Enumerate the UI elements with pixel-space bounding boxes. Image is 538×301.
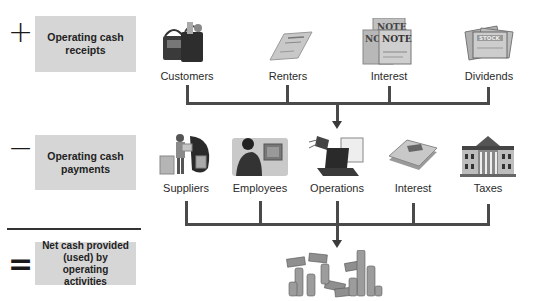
connector-taxes <box>487 204 490 225</box>
operations-laptop-icon <box>307 130 367 180</box>
lease-document-icon <box>258 18 318 68</box>
source-renters: Renters <box>248 18 328 82</box>
source-label: Suppliers <box>163 182 209 194</box>
source-label: Operations <box>310 182 364 194</box>
source-label: Taxes <box>474 182 503 194</box>
box-label-line: payments <box>47 163 123 176</box>
connector-operations <box>336 201 339 225</box>
box-label-line: Operating cash <box>47 31 123 44</box>
box-label-line: activities <box>41 276 130 288</box>
sum-divider-line <box>7 228 141 230</box>
receipts-arrow-head-icon <box>332 121 342 129</box>
note-certificates-icon: NOTE NO NOTE <box>359 18 419 68</box>
connector-suppliers <box>185 201 188 225</box>
box-label-line: (used) by operating <box>41 252 130 276</box>
stock-certificates-icon: STOCK <box>459 18 519 68</box>
supplier-boxes-icon <box>156 130 216 180</box>
equals-operator: = <box>8 246 33 281</box>
money-pile-icon <box>285 250 385 300</box>
payments-arrow-shaft <box>336 225 339 241</box>
source-interest-received: NOTE NO NOTE Interest <box>349 18 429 82</box>
svg-text:NOTE: NOTE <box>382 34 412 44</box>
receipts-arrow-shaft <box>336 104 339 122</box>
source-customers: Customers <box>147 18 227 82</box>
source-label: Customers <box>160 70 213 82</box>
minus-operator: − <box>8 130 33 165</box>
box-label-line: Operating cash <box>47 150 123 163</box>
operating-cash-payments-box: Operating cash payments <box>35 135 136 190</box>
connector-employees <box>259 201 262 225</box>
source-label: Renters <box>269 70 308 82</box>
source-taxes: Taxes <box>448 130 528 194</box>
box-label-line: receipts <box>47 44 123 57</box>
box-label-line: Net cash provided <box>41 240 130 252</box>
shopping-bags-icon <box>157 18 217 68</box>
source-suppliers: Suppliers <box>146 130 226 194</box>
source-label: Interest <box>371 70 408 82</box>
employee-computer-icon <box>230 130 290 180</box>
source-employees: Employees <box>220 130 300 194</box>
source-label: Interest <box>395 182 432 194</box>
source-label: Employees <box>233 182 287 194</box>
net-cash-box: Net cash provided (used) by operating ac… <box>35 242 136 285</box>
interest-document-icon <box>383 130 443 180</box>
operating-cash-receipts-box: Operating cash receipts <box>35 16 136 72</box>
plus-operator: + <box>8 14 33 49</box>
source-dividends: STOCK Dividends <box>449 18 529 82</box>
svg-text:STOCK: STOCK <box>479 35 500 41</box>
source-operations: Operations <box>297 130 377 194</box>
connector-interest-paid <box>412 203 415 225</box>
source-label: Dividends <box>465 70 513 82</box>
government-building-icon <box>458 130 518 180</box>
source-interest-paid: Interest <box>373 130 453 194</box>
payments-arrow-head-icon <box>332 240 342 248</box>
